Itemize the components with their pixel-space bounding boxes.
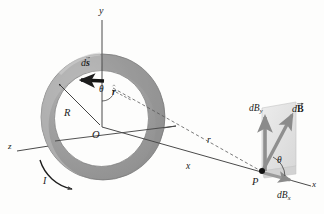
diagram-canvas [0,0,324,214]
distance-r-label: r [207,136,211,146]
r-hat-caret [112,83,116,88]
dBy-subscript: y [260,107,263,114]
y-axis-label: y [99,6,103,16]
ds-element-label: ds [81,58,90,68]
theta-point-p-label: θ [277,156,282,166]
dBy-text: dB [249,103,260,113]
ds-element-arrow [81,80,104,81]
ds-vector-arrow [86,55,90,60]
r-hat-label: r [112,87,116,97]
radius-label: R [64,108,70,119]
point-p-label: P [252,177,258,188]
current-loop-ring [41,54,165,180]
z-axis-label: z [8,142,12,151]
dBx-subscript: x [288,194,291,201]
dB-total-label: dB [292,104,304,114]
theta-loop-label: θ [99,85,104,95]
point-p-marker [259,168,265,174]
current-label: I [43,176,46,186]
dBx-text: dB [277,190,288,200]
origin-label: O [92,130,100,141]
x-axis-label: x [312,180,316,189]
physics-diagram-current-loop: y z x ds θ r R O I r x P dBy [0,0,324,214]
dBy-label: dBy [249,104,263,115]
axial-distance-x-label: x [186,162,190,172]
dBx-label: dBx [277,191,291,202]
dB-vector-arrow [297,101,304,106]
